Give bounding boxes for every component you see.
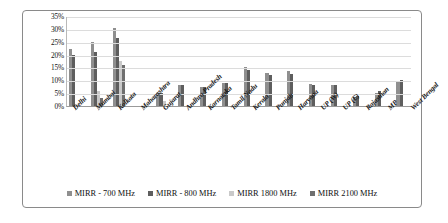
legend-label: MIRR - 700 MHz: [75, 189, 135, 198]
gridline: [67, 43, 411, 44]
bar: [269, 75, 272, 106]
chart-legend: MIRR - 700 MHzMIRR - 800 MHzMIRR 1800 MH…: [23, 189, 421, 198]
bar: [72, 55, 75, 106]
legend-item[interactable]: MIRR - 700 MHz: [67, 189, 135, 198]
y-tick-label: 10%: [51, 77, 64, 84]
legend-swatch-icon: [148, 191, 153, 196]
legend-swatch-icon: [67, 191, 72, 196]
legend-swatch-icon: [229, 191, 234, 196]
y-axis-labels: 0%5%10%15%20%25%30%35%: [37, 17, 65, 107]
legend-item[interactable]: MIRR 1800 MHz: [229, 189, 297, 198]
y-tick-label: 15%: [51, 64, 64, 71]
chart-frame: 0%5%10%15%20%25%30%35% DelhiMumbaiKolkat…: [22, 10, 422, 208]
gridline: [67, 81, 411, 82]
y-tick-label: 5%: [55, 90, 64, 97]
x-axis-category-labels: DelhiMumbaiKolkataMaharashtraGujaratAndh…: [66, 107, 426, 167]
x-tick-label: West Bengal: [410, 82, 441, 113]
gridline: [67, 68, 411, 69]
legend-item[interactable]: MIRR 2100 MHz: [310, 189, 378, 198]
bar: [400, 80, 403, 106]
legend-label: MIRR 2100 MHz: [318, 189, 378, 198]
legend-label: MIRR - 800 MHz: [156, 189, 216, 198]
legend-swatch-icon: [310, 191, 315, 196]
y-tick-label: 35%: [51, 13, 64, 20]
legend-item[interactable]: MIRR - 800 MHz: [148, 189, 216, 198]
y-tick-label: 30%: [51, 26, 64, 33]
legend-label: MIRR 1800 MHz: [237, 189, 297, 198]
gridline: [67, 30, 411, 31]
gridline: [67, 56, 411, 57]
gridline: [67, 17, 411, 18]
y-tick-label: 0%: [55, 103, 64, 110]
y-tick-label: 25%: [51, 39, 64, 46]
y-tick-label: 20%: [51, 52, 64, 59]
